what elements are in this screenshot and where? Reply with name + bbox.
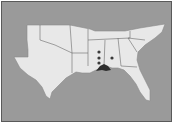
occurrence-marker: [97, 56, 100, 59]
occurrence-marker: [97, 50, 100, 53]
occurrence-marker: [97, 61, 100, 64]
distribution-map: [0, 0, 175, 125]
land-mass: [14, 24, 165, 101]
occurrence-marker: [110, 56, 113, 59]
